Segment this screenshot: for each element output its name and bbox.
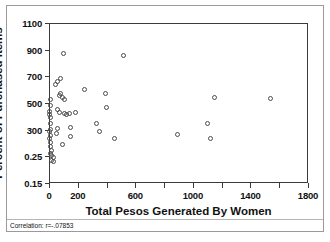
data-point	[268, 96, 273, 101]
y-tick-label-0.25: 0.25	[24, 151, 42, 162]
x-tick-label-200: 200	[70, 190, 85, 201]
x-tick-label-1400: 1400	[240, 190, 260, 201]
data-point	[82, 87, 87, 92]
y-axis-title: Percent of Purchased Items	[0, 27, 4, 178]
data-point	[48, 115, 53, 120]
x-tick-label-0: 0	[46, 190, 51, 201]
x-tick-label-1000: 1000	[183, 190, 203, 201]
data-point	[62, 97, 67, 102]
y-tick-700	[45, 76, 50, 77]
x-tick-0	[49, 183, 50, 188]
correlation-footnote: Correlation: r=-.07853	[10, 222, 73, 229]
y-tick-label-0.15: 0.15	[24, 178, 42, 189]
data-point	[175, 132, 180, 137]
data-point	[68, 134, 73, 139]
data-point	[51, 159, 56, 164]
data-point	[67, 111, 72, 116]
y-tick-900	[45, 50, 50, 51]
data-point	[97, 129, 102, 134]
data-point	[48, 121, 53, 126]
y-tick-label-1100: 1100	[22, 18, 42, 29]
y-tick-label-300: 300	[27, 124, 42, 135]
data-point	[103, 91, 108, 96]
x-tick-400	[107, 183, 108, 188]
scatter-plot-figure: 11009007005003000.250.15 020060010001400…	[0, 0, 330, 242]
y-tick-label-500: 500	[27, 98, 42, 109]
y-tick-label-900: 900	[27, 44, 42, 55]
data-point	[121, 53, 126, 58]
x-tick-1200	[222, 183, 223, 188]
x-axis-title: Total Pesos Generated By Women	[49, 205, 308, 217]
data-point	[58, 76, 63, 81]
data-point	[68, 125, 73, 130]
x-tick-label-600: 600	[128, 190, 143, 201]
data-point	[48, 103, 53, 108]
x-tick-1400	[250, 183, 251, 188]
y-tick-1100	[45, 23, 50, 24]
data-point	[48, 97, 53, 102]
x-tick-label-1800: 1800	[298, 190, 318, 201]
footnote-divider	[7, 219, 323, 220]
x-tick-200	[78, 183, 79, 188]
data-point	[208, 136, 213, 141]
data-point	[94, 121, 99, 126]
data-point	[54, 131, 59, 136]
data-point	[60, 142, 65, 147]
x-tick-1800	[308, 183, 309, 188]
data-point	[104, 105, 109, 110]
data-point	[205, 121, 210, 126]
data-point	[61, 51, 66, 56]
x-tick-600	[135, 183, 136, 188]
y-tick-label-700: 700	[27, 71, 42, 82]
data-point	[212, 95, 217, 100]
x-tick-1600	[279, 183, 280, 188]
x-tick-1000	[193, 183, 194, 188]
data-point	[73, 110, 78, 115]
plot-area: 11009007005003000.250.15 020060010001400…	[49, 23, 308, 183]
x-tick-800	[164, 183, 165, 188]
data-point	[112, 136, 117, 141]
